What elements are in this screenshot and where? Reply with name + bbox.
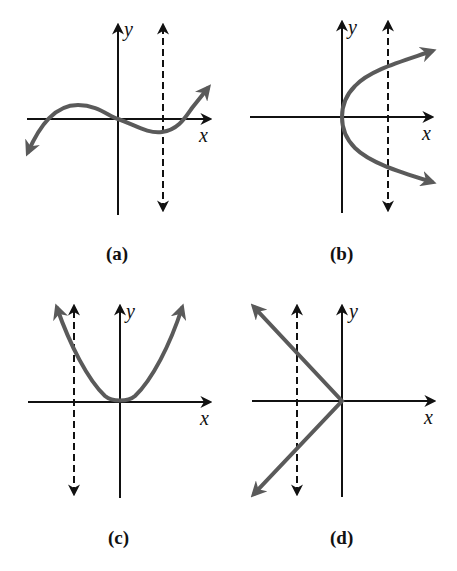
vertical-line-test-figure: y x (a) y x (b) y x (c) y x (d) — [0, 0, 457, 571]
y-axis-label: y — [347, 300, 358, 323]
panel-caption: (d) — [330, 527, 353, 549]
panel-caption: (c) — [108, 527, 129, 549]
panel-b: y x (b) — [250, 16, 432, 265]
panel-caption: (a) — [106, 243, 128, 265]
panel-a: y x (a) — [27, 18, 210, 265]
x-axis-label: x — [423, 406, 433, 428]
x-axis-label: x — [198, 124, 208, 146]
panel-caption: (b) — [330, 243, 353, 265]
y-axis-label: y — [346, 16, 357, 39]
x-axis-label: x — [199, 407, 209, 429]
y-axis-label: y — [122, 18, 133, 41]
panel-c: y x (c) — [28, 300, 210, 549]
panel-d: y x (d) — [252, 300, 434, 549]
x-axis-label: x — [421, 122, 431, 144]
y-axis-label: y — [124, 300, 135, 323]
